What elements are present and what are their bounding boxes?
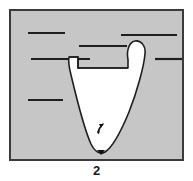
figure-container: 2 bbox=[0, 0, 193, 181]
figure-illustration bbox=[0, 0, 193, 181]
figure-number-label: 2 bbox=[0, 163, 193, 179]
